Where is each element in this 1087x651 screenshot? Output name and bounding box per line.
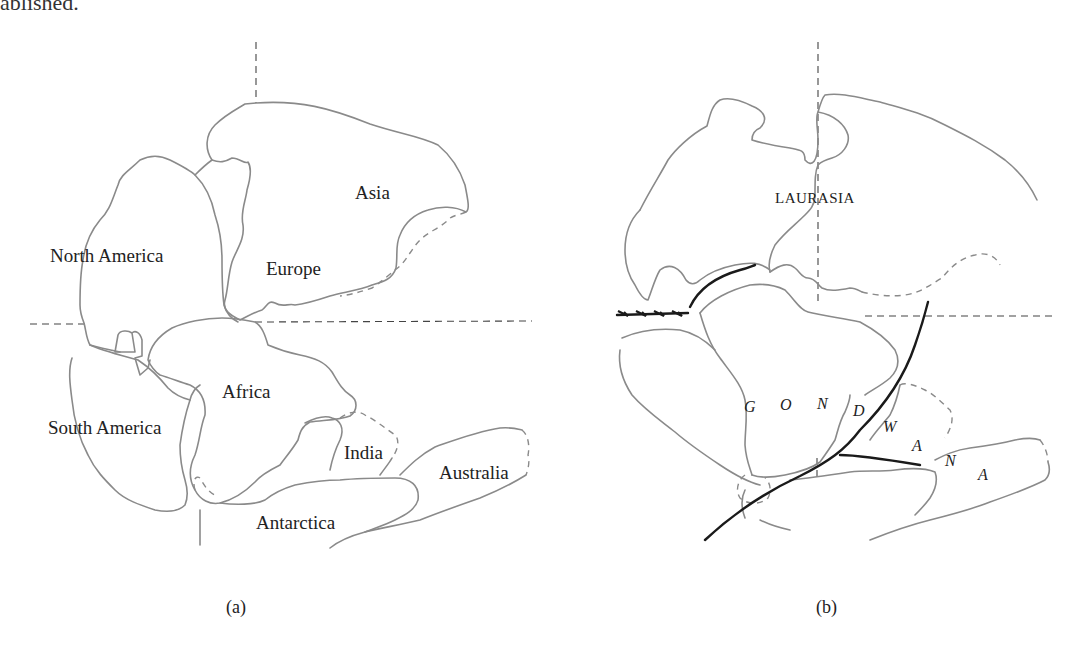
label-south-america: South America [48,417,161,439]
caption-panel-b: (b) [816,597,837,618]
gondwana-west-coast [620,329,761,485]
label-india: India [344,442,383,464]
gondwana-australia-dashed [1040,440,1048,462]
label-gondwana-d: D [853,402,865,420]
label-antarctica: Antarctica [256,512,335,534]
gondwana-east-coast [752,395,850,477]
central-america-blocks [115,331,150,375]
africa-coastline [148,318,356,503]
gondwana-coastline [700,284,898,395]
gondwana-australia-south [870,462,1049,540]
laurasia-dashed-margin [862,254,1000,296]
australia-south-coast [330,475,526,548]
panel-b-map [617,42,1054,540]
gondwana-india-dashed [900,384,952,438]
label-laurasia: LAURASIA [775,190,855,207]
label-asia: Asia [355,182,390,204]
india-coastline [305,417,342,470]
gondwana-antarctica-coast [790,469,936,515]
label-gondwana-o: O [780,396,792,414]
north-america-inner-coast [195,175,238,322]
eurasia-dashed-margin [340,212,466,296]
label-north-america: North America [50,245,163,267]
laurasia-west-coast [625,210,770,300]
label-gondwana-w: W [883,418,896,436]
eurasia-coastline [207,102,468,320]
label-africa: Africa [222,381,271,403]
pangaea-maps [0,0,1087,651]
gondwana-sa-coast [700,313,752,475]
label-gondwana-a2: A [978,466,988,484]
east-branch-belt [840,455,920,465]
label-gondwana-n2: N [945,452,956,470]
caption-panel-a: (a) [226,597,246,618]
label-europe: Europe [266,258,321,280]
label-gondwana-n1: N [817,395,828,413]
gondwana-antarctica-west [742,490,790,530]
label-gondwana-g: G [744,398,756,416]
label-gondwana-a1: A [912,437,922,455]
label-australia: Australia [439,462,509,484]
australia-dashed-margin [522,430,529,475]
laurasia-south-coast [770,265,862,292]
equator-line-a-right [255,321,532,322]
